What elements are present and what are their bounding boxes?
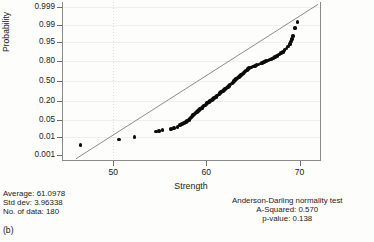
data-point <box>293 26 297 30</box>
y-axis-tick-label: 0.80 <box>39 57 55 65</box>
panel-label: (b) <box>3 226 14 235</box>
count-line: No. of data: 180 <box>3 207 65 216</box>
a-squared-line: A-Squared: 0.570 <box>232 205 343 214</box>
y-axis-tick-label: 0.05 <box>39 116 55 124</box>
x-axis-tick <box>206 161 207 166</box>
p-value-line: p-value: 0.138 <box>232 214 343 223</box>
y-axis-tick-label: 0.01 <box>39 133 55 141</box>
data-point <box>79 143 83 147</box>
right-axis-line <box>320 2 321 161</box>
y-axis-tick-label: 0.95 <box>39 38 55 46</box>
summary-statistics: Average: 61.0978 Std dev: 3.96338 No. of… <box>3 189 65 216</box>
y-axis-tick-label: 0.50 <box>39 77 55 85</box>
x-axis-line <box>62 160 321 161</box>
y-axis-tick-label: 0.001 <box>35 151 56 159</box>
y-axis-tick-label: 0.20 <box>39 97 55 105</box>
data-point <box>291 34 295 38</box>
probability-plot-figure: 0.0010.010.050.200.500.800.950.990.999 5… <box>0 0 374 242</box>
y-axis-tick-label: 0.99 <box>39 21 55 29</box>
plot-area <box>62 2 320 160</box>
normal-fit-line <box>62 2 320 160</box>
y-axis-title: Probability <box>1 12 11 52</box>
average-line: Average: 61.0978 <box>3 189 65 198</box>
stddev-line: Std dev: 3.96338 <box>3 198 65 207</box>
data-point <box>117 138 121 142</box>
test-name: Anderson-Darling normality test <box>232 196 343 205</box>
x-axis-tick-label: 60 <box>202 168 212 177</box>
normality-test-results: Anderson-Darling normality test A-Square… <box>232 196 343 223</box>
x-axis-tick-label: 50 <box>108 168 118 177</box>
y-axis-tick-label: 0.999 <box>35 3 56 11</box>
x-axis-tick-label: 70 <box>295 168 305 177</box>
x-axis-tick <box>300 161 301 166</box>
x-axis-tick <box>113 161 114 166</box>
x-axis-title: Strength <box>174 181 207 191</box>
